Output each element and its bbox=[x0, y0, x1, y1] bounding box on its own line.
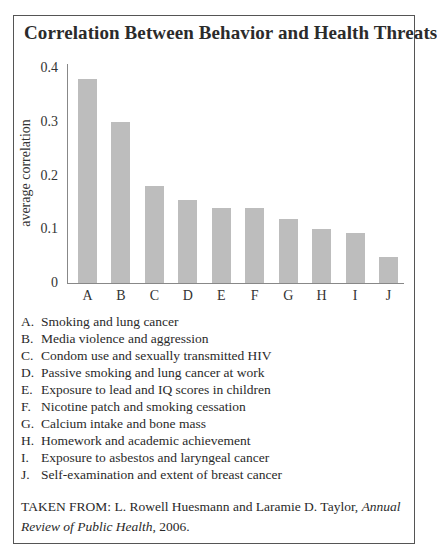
x-tick-label: J bbox=[386, 288, 391, 304]
legend-item: A.Smoking and lung cancer bbox=[21, 313, 282, 330]
legend-key: A. bbox=[21, 313, 41, 330]
x-tick-label: I bbox=[353, 288, 358, 304]
legend-item: B.Media violence and aggression bbox=[21, 330, 282, 347]
source-suffix: , 2006. bbox=[153, 519, 190, 534]
legend-item: F.Nicotine patch and smoking cessation bbox=[21, 398, 282, 415]
legend-item: C.Condom use and sexually transmitted HI… bbox=[21, 347, 282, 364]
legend-label: Nicotine patch and smoking cessation bbox=[41, 399, 246, 414]
bar-d bbox=[178, 200, 197, 283]
source-citation: TAKEN FROM: L. Rowell Huesmann and Laram… bbox=[21, 497, 406, 537]
y-tick-label: 0.1 bbox=[28, 221, 58, 237]
legend-key: J. bbox=[21, 466, 41, 483]
legend-item: D.Passive smoking and lung cancer at wor… bbox=[21, 364, 282, 381]
y-tick-label: 0.3 bbox=[28, 114, 58, 130]
legend-label: Self-examination and extent of breast ca… bbox=[41, 467, 282, 482]
x-tick-label: B bbox=[116, 288, 125, 304]
legend-key: D. bbox=[21, 364, 41, 381]
bar-a bbox=[78, 79, 97, 283]
y-tick-label: 0 bbox=[28, 275, 58, 291]
category-legend: A.Smoking and lung cancerB.Media violenc… bbox=[21, 313, 282, 483]
x-tick-label: H bbox=[317, 288, 327, 304]
legend-label: Exposure to lead and IQ scores in childr… bbox=[41, 382, 271, 397]
x-axis-line bbox=[67, 283, 404, 284]
legend-item: G.Calcium intake and bone mass bbox=[21, 415, 282, 432]
legend-item: E.Exposure to lead and IQ scores in chil… bbox=[21, 381, 282, 398]
x-tick-label: D bbox=[183, 288, 193, 304]
bar-h bbox=[312, 229, 331, 283]
y-tick-label: 0.4 bbox=[28, 60, 58, 76]
bar-i bbox=[346, 233, 365, 283]
bar-c bbox=[145, 186, 164, 283]
x-tick-label: G bbox=[283, 288, 293, 304]
x-tick-label: C bbox=[150, 288, 159, 304]
y-tick-label: 0.2 bbox=[28, 168, 58, 184]
legend-label: Condom use and sexually transmitted HIV bbox=[41, 348, 272, 363]
legend-label: Media violence and aggression bbox=[41, 331, 209, 346]
legend-label: Calcium intake and bone mass bbox=[41, 416, 206, 431]
legend-label: Passive smoking and lung cancer at work bbox=[41, 365, 264, 380]
bar-f bbox=[245, 208, 264, 283]
legend-key: B. bbox=[21, 330, 41, 347]
legend-label: Homework and academic achievement bbox=[41, 433, 251, 448]
legend-label: Smoking and lung cancer bbox=[41, 314, 179, 329]
bar-e bbox=[212, 208, 231, 283]
legend-key: G. bbox=[21, 415, 41, 432]
x-tick-label: A bbox=[82, 288, 92, 304]
legend-label: Exposure to asbestos and laryngeal cance… bbox=[41, 450, 269, 465]
legend-item: H.Homework and academic achievement bbox=[21, 432, 282, 449]
bar-b bbox=[111, 122, 130, 283]
bar-j bbox=[379, 257, 398, 283]
y-axis-line bbox=[67, 64, 68, 283]
source-prefix: TAKEN FROM: L. Rowell Huesmann and Laram… bbox=[21, 499, 362, 514]
legend-item: J.Self-examination and extent of breast … bbox=[21, 466, 282, 483]
legend-key: F. bbox=[21, 398, 41, 415]
chart-title: Correlation Between Behavior and Health … bbox=[24, 22, 437, 44]
bar-g bbox=[279, 219, 298, 283]
x-tick-label: E bbox=[217, 288, 226, 304]
legend-key: H. bbox=[21, 432, 41, 449]
legend-item: I.Exposure to asbestos and laryngeal can… bbox=[21, 449, 282, 466]
legend-key: I. bbox=[21, 449, 41, 466]
legend-key: C. bbox=[21, 347, 41, 364]
x-tick-label: F bbox=[251, 288, 259, 304]
legend-key: E. bbox=[21, 381, 41, 398]
